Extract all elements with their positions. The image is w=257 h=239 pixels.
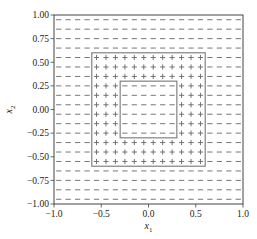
plus-marker <box>122 55 127 60</box>
plus-marker <box>103 93 108 98</box>
marker-grid <box>56 20 241 200</box>
scatter-chart: −1.0−0.50.00.51.0 −1.00−0.75−0.50−0.250.… <box>0 0 257 239</box>
plus-marker <box>103 140 108 145</box>
x-tick-label: 1.0 <box>237 209 249 219</box>
plus-marker <box>179 74 184 79</box>
plus-marker <box>179 64 184 69</box>
plus-marker <box>113 102 118 107</box>
plus-marker <box>103 83 108 88</box>
plus-marker <box>94 83 99 88</box>
plus-marker <box>160 74 165 79</box>
plus-marker <box>103 131 108 136</box>
x-axis-label: x1 <box>144 220 153 234</box>
plus-marker <box>94 121 99 126</box>
plus-marker <box>151 55 156 60</box>
plus-marker <box>122 159 127 164</box>
plus-marker <box>198 121 203 126</box>
plus-marker <box>113 149 118 154</box>
plus-marker <box>179 149 184 154</box>
plus-marker <box>160 159 165 164</box>
inner-square-boundary <box>120 81 177 138</box>
plus-marker <box>198 140 203 145</box>
plus-marker <box>188 159 193 164</box>
x-tick-label: 0.0 <box>143 209 155 219</box>
y-tick-label: −0.25 <box>27 128 49 138</box>
plus-marker <box>113 93 118 98</box>
plus-marker <box>122 140 127 145</box>
plus-marker <box>103 159 108 164</box>
y-tick-label: 0.25 <box>32 81 49 91</box>
plus-marker <box>103 102 108 107</box>
plus-marker <box>179 102 184 107</box>
plus-marker <box>179 131 184 136</box>
plus-marker <box>198 74 203 79</box>
plus-marker <box>94 159 99 164</box>
plus-marker <box>113 131 118 136</box>
x-tick-label: −1.0 <box>45 209 62 219</box>
plus-marker <box>132 149 137 154</box>
plus-marker <box>103 149 108 154</box>
plus-marker <box>188 121 193 126</box>
plus-marker <box>198 149 203 154</box>
plus-marker <box>198 93 203 98</box>
plus-marker <box>188 64 193 69</box>
plus-marker <box>170 64 175 69</box>
plus-marker <box>132 55 137 60</box>
y-tick-label: −0.50 <box>27 152 49 162</box>
plus-marker <box>188 140 193 145</box>
plus-marker <box>94 149 99 154</box>
plus-marker <box>198 159 203 164</box>
plus-marker <box>151 149 156 154</box>
plus-marker <box>188 74 193 79</box>
plus-marker <box>179 83 184 88</box>
plus-marker <box>141 159 146 164</box>
y-tick-label: −1.00 <box>27 199 49 209</box>
plus-marker <box>198 83 203 88</box>
plus-marker <box>113 64 118 69</box>
plus-marker <box>188 149 193 154</box>
plus-marker <box>170 149 175 154</box>
plus-marker <box>160 55 165 60</box>
plus-marker <box>94 74 99 79</box>
plus-marker <box>103 55 108 60</box>
plot-frame <box>54 15 243 204</box>
y-tick-label: 1.00 <box>32 10 49 20</box>
plus-marker <box>141 64 146 69</box>
plus-marker <box>103 64 108 69</box>
plus-marker <box>132 159 137 164</box>
plus-marker <box>170 140 175 145</box>
plus-marker <box>179 121 184 126</box>
plus-marker <box>198 112 203 117</box>
plus-marker <box>160 64 165 69</box>
plus-marker <box>188 55 193 60</box>
plus-marker <box>113 140 118 145</box>
plus-marker <box>113 159 118 164</box>
plus-marker <box>160 140 165 145</box>
plus-marker <box>179 55 184 60</box>
plus-marker <box>113 121 118 126</box>
plus-marker <box>132 64 137 69</box>
plus-marker <box>141 140 146 145</box>
x-tick-label: 0.5 <box>190 209 202 219</box>
plus-marker <box>179 93 184 98</box>
plus-marker <box>94 112 99 117</box>
plus-marker <box>94 140 99 145</box>
plus-marker <box>151 159 156 164</box>
plus-marker <box>188 131 193 136</box>
plus-marker <box>113 74 118 79</box>
plus-marker <box>113 83 118 88</box>
x-axis-ticks: −1.0−0.50.00.51.0 <box>45 204 249 219</box>
plus-marker <box>198 55 203 60</box>
plus-marker <box>151 74 156 79</box>
plus-marker <box>151 64 156 69</box>
plus-marker <box>122 64 127 69</box>
plus-marker <box>188 112 193 117</box>
plus-marker <box>151 140 156 145</box>
plus-marker <box>113 55 118 60</box>
plus-marker <box>132 140 137 145</box>
plus-marker <box>188 83 193 88</box>
plus-marker <box>170 159 175 164</box>
plus-marker <box>113 112 118 117</box>
x-tick-label: −0.5 <box>93 209 110 219</box>
plus-marker <box>94 64 99 69</box>
